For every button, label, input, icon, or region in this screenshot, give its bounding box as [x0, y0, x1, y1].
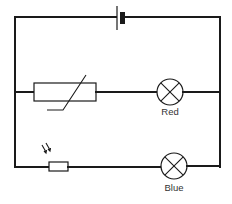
thermistor-icon [34, 75, 96, 110]
middle-branch: Red [15, 75, 220, 117]
lamp-red-label: Red [161, 106, 178, 117]
battery-icon [117, 6, 125, 30]
lamp-blue-icon [161, 153, 187, 179]
bottom-branch: Blue [15, 143, 220, 193]
lamp-red-icon [157, 79, 183, 105]
circuit-diagram: Red Blue [0, 0, 232, 204]
lamp-blue-label: Blue [164, 182, 183, 193]
top-branch [15, 6, 220, 30]
light-arrows-icon [42, 143, 51, 153]
